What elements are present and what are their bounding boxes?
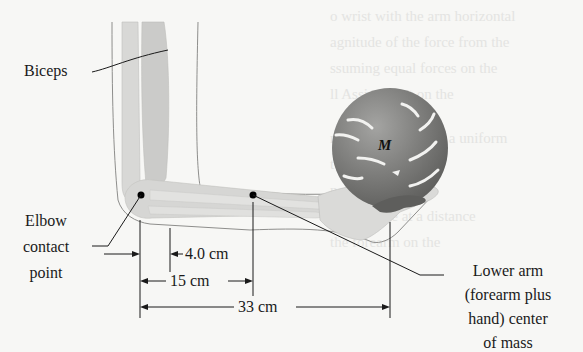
ball-mass-label: M (378, 135, 391, 155)
biceps-label: Biceps (24, 61, 68, 81)
dimension-com-distance: 15 cm (168, 272, 212, 290)
com-label-line: (forearm plus (444, 285, 572, 305)
elbow-label-line: contact (8, 237, 84, 257)
humerus (122, 22, 140, 200)
com-label-line: of mass (444, 333, 572, 352)
center-of-mass-label: Lower arm (forearm plus hand) center of … (444, 261, 572, 352)
elbow-label-line: Elbow (8, 211, 84, 231)
biceps-muscle (142, 22, 169, 189)
com-label-line: Lower arm (444, 261, 572, 281)
dimension-ball-distance: 33 cm (236, 298, 280, 316)
elbow-contact-label: Elbow contact point (8, 211, 84, 283)
elbow-label-line: point (8, 263, 84, 283)
com-label-line: hand) center (444, 309, 572, 329)
dimension-biceps-distance: 4.0 cm (183, 245, 231, 263)
